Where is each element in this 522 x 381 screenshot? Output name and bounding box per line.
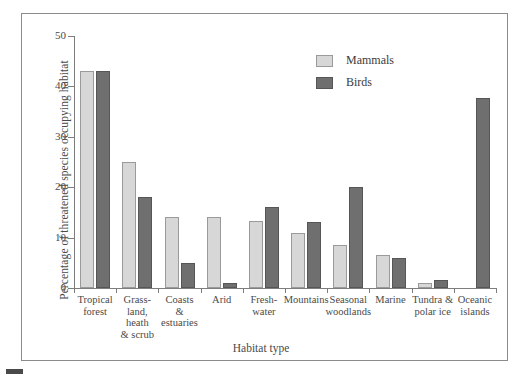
bar-birds <box>223 283 237 288</box>
x-axis-tick <box>327 288 328 293</box>
legend-label-mammals: Mammals <box>346 52 394 69</box>
bar-birds <box>96 71 110 288</box>
bar-birds <box>138 197 152 288</box>
x-axis-tick <box>116 288 117 293</box>
x-axis-title: Habitat type <box>196 342 326 354</box>
x-axis-tick <box>158 288 159 293</box>
bar-mammals <box>165 217 179 288</box>
legend-item-mammals: Mammals <box>316 52 436 74</box>
bar-birds <box>181 263 195 288</box>
x-axis-tick <box>369 288 370 293</box>
legend-label-birds: Birds <box>346 74 372 91</box>
bar-mammals <box>80 71 94 288</box>
category-label-line: & scrub <box>111 329 163 341</box>
bar-mammals <box>418 283 432 288</box>
bar-mammals <box>249 221 263 288</box>
bar-birds <box>265 207 279 288</box>
x-axis-tick <box>243 288 244 293</box>
category-label-line: estuaries <box>153 317 205 329</box>
category-label-line: woodlands <box>322 306 374 318</box>
bar-birds <box>434 280 448 288</box>
bar-mammals <box>291 233 305 288</box>
bar-mammals <box>376 255 390 288</box>
bar-mammals <box>333 245 347 288</box>
legend-swatch-birds <box>316 77 333 89</box>
x-axis-tick <box>74 288 75 293</box>
bar-birds <box>476 98 490 288</box>
caption-marker <box>6 369 23 374</box>
y-axis-title: Percentage of threatened species occupyi… <box>58 50 70 310</box>
legend-swatch-mammals <box>316 55 333 67</box>
bar-birds <box>349 187 363 288</box>
bar-birds <box>307 222 321 288</box>
bar-mammals <box>122 162 136 288</box>
x-axis-tick <box>454 288 455 293</box>
x-axis-tick <box>285 288 286 293</box>
legend: Mammals Birds <box>316 52 436 96</box>
category-label-line: & <box>153 306 205 318</box>
x-axis-category-label: Oceanicislands <box>449 294 501 317</box>
bar-mammals <box>207 217 221 288</box>
x-axis-tick <box>412 288 413 293</box>
category-label-line: water <box>238 306 290 318</box>
bar-birds <box>392 258 406 288</box>
x-axis-tick <box>201 288 202 293</box>
legend-item-birds: Birds <box>316 74 436 96</box>
category-label-line: islands <box>449 306 501 318</box>
figure-container: 01020304050 Percentage of threatened spe… <box>0 0 522 381</box>
y-axis-tick-label: 50 <box>26 30 66 41</box>
x-axis-tick <box>496 288 497 293</box>
category-label-line: Oceanic <box>449 294 501 306</box>
